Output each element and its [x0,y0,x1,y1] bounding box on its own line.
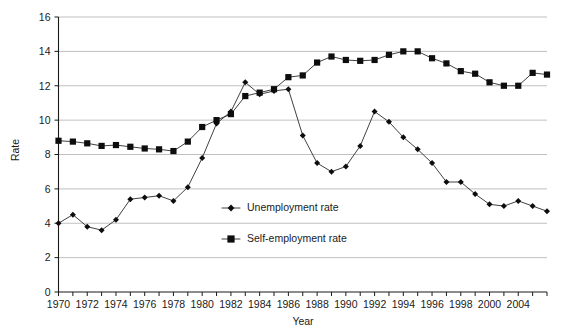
y-tick-label: 2 [45,251,51,263]
y-tick-label: 10 [39,114,51,126]
data-point-marker [185,139,191,145]
y-tick-label: 14 [39,45,51,57]
y-tick-label: 12 [39,80,51,92]
x-tick-label: 1972 [76,298,100,310]
x-tick-label: 1982 [219,298,243,310]
data-point-marker [242,93,248,99]
x-tick-label: 1970 [47,298,71,310]
data-point-marker [300,72,306,78]
square-marker-icon [227,235,234,242]
data-point-marker [458,68,464,74]
data-point-marker [530,70,536,76]
data-point-marker [99,143,105,149]
data-point-marker [328,53,334,59]
x-tick-label: 1978 [162,298,186,310]
line-chart: 0246810121416 19701972197419761978198019… [0,0,577,335]
data-point-marker [515,83,521,89]
x-tick-label: 1976 [133,298,157,310]
x-tick-label: 1990 [334,298,358,310]
data-point-marker [443,60,449,66]
data-point-marker [199,124,205,130]
x-tick-label: 1984 [248,298,272,310]
data-point-marker [343,57,349,63]
data-point-marker [472,71,478,77]
data-point-marker [415,48,421,54]
x-tick-label: 1996 [420,298,444,310]
x-tick-label: 1992 [363,298,387,310]
data-point-marker [371,57,377,63]
x-axis-title: Year [292,315,314,327]
x-tick-label: 1998 [449,298,473,310]
data-point-marker [142,145,148,151]
data-point-marker [285,74,291,80]
data-point-marker [271,86,277,92]
y-axis-title: Rate [9,139,21,161]
data-point-marker [400,48,406,54]
data-point-marker [357,58,363,64]
data-point-marker [113,142,119,148]
legend-label-unemployment: Unemployment rate [247,201,339,213]
y-tick-label: 4 [45,217,51,229]
y-tick-label: 0 [45,286,51,298]
x-tick-label: 2004 [507,298,531,310]
data-point-marker [257,90,263,96]
legend-label-self-employment: Self-employment rate [247,232,347,244]
data-point-marker [55,138,61,144]
data-point-marker [501,83,507,89]
data-point-marker [127,144,133,150]
chart-container: 0246810121416 19701972197419761978198019… [0,0,577,335]
data-point-marker [213,117,219,123]
data-point-marker [228,111,234,117]
x-tick-label: 1974 [104,298,128,310]
data-point-marker [314,59,320,65]
data-point-marker [170,148,176,154]
chart-background [0,0,577,335]
x-tick-label: 1994 [392,298,416,310]
data-point-marker [386,52,392,58]
data-point-marker [544,71,550,77]
data-point-marker [70,139,76,145]
x-tick-label: 1980 [190,298,214,310]
y-tick-label: 16 [39,11,51,23]
data-point-marker [486,79,492,85]
data-point-marker [156,146,162,152]
x-tick-label: 1988 [305,298,329,310]
data-point-marker [84,140,90,146]
x-tick-label: 1986 [277,298,301,310]
x-tick-label: 2000 [478,298,502,310]
y-tick-label: 6 [45,183,51,195]
data-point-marker [429,55,435,61]
y-tick-label: 8 [45,148,51,160]
